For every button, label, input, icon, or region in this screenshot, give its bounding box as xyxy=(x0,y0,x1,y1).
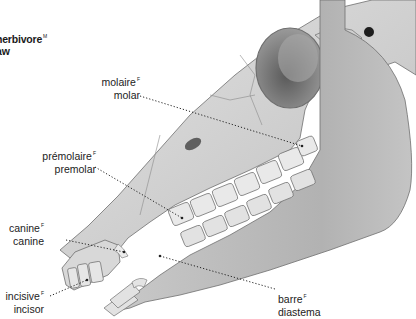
label-en: canine xyxy=(0,235,44,248)
label-fr: prémolaire xyxy=(42,150,92,162)
gender-marker: F xyxy=(41,290,44,296)
label-molar: molaireF molar xyxy=(100,73,140,102)
title-line1: herbivore xyxy=(0,33,42,45)
gender-marker: F xyxy=(41,222,44,228)
gender-marker: F xyxy=(137,76,140,82)
label-canine: canineF canine xyxy=(0,219,44,248)
label-en: diastema xyxy=(278,306,321,319)
label-fr: incisive xyxy=(6,290,40,302)
label-diastema: barreF diastema xyxy=(278,290,321,319)
gender-marker: F xyxy=(93,150,96,156)
label-premolar: prémolaireF premolar xyxy=(30,147,96,176)
label-en: incisor xyxy=(0,303,44,316)
label-en: molar xyxy=(100,89,140,102)
diagram-title: herbivoreM aw xyxy=(0,30,47,57)
label-fr: molaire xyxy=(102,76,136,88)
gender-marker: M xyxy=(43,33,47,39)
label-fr: canine xyxy=(9,222,40,234)
title-line2: aw xyxy=(0,45,47,57)
label-fr: barre xyxy=(278,293,303,305)
label-incisor: incisiveF incisor xyxy=(0,287,44,316)
label-en: premolar xyxy=(30,163,96,176)
gender-marker: F xyxy=(304,293,307,299)
